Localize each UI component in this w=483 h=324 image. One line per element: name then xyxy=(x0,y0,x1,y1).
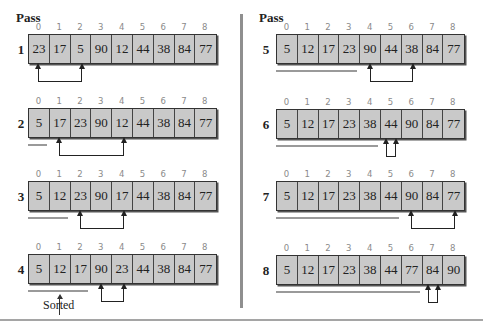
index-label: 5 xyxy=(380,169,401,181)
array-cell: 77 xyxy=(443,35,464,63)
arrow-head-icon xyxy=(408,210,414,216)
index-label: 6 xyxy=(401,97,422,109)
index-label: 4 xyxy=(359,97,380,109)
index-label: 6 xyxy=(401,169,422,181)
arrow-head-icon xyxy=(393,138,399,144)
array-cell: 38 xyxy=(360,256,381,284)
array-cell: 44 xyxy=(381,110,402,138)
index-label: 4 xyxy=(359,243,380,255)
index-label: 4 xyxy=(359,169,380,181)
array-box: 51217233844908477 xyxy=(276,109,465,139)
index-label: 0 xyxy=(276,22,297,34)
swap-arrow xyxy=(411,212,455,229)
pass-number: 8 xyxy=(259,263,273,279)
arrow-head-icon xyxy=(383,138,389,144)
index-label: 1 xyxy=(297,243,318,255)
index-label: 3 xyxy=(338,22,359,34)
array-cell: 90 xyxy=(443,256,464,284)
array-box: 51217239044388477 xyxy=(276,34,465,64)
swap-arrow xyxy=(428,286,438,303)
index-label: 1 xyxy=(297,22,318,34)
sorted-label: Sorted xyxy=(43,298,74,313)
array-cell: 38 xyxy=(402,35,423,63)
array-cell: 84 xyxy=(423,110,444,138)
index-labels: 012345678 xyxy=(276,243,463,255)
array-cell: 77 xyxy=(443,110,464,138)
array-cell: 12 xyxy=(298,182,319,210)
pass-number: 5 xyxy=(259,42,273,58)
index-label: 7 xyxy=(422,169,443,181)
array-box: 51217233844908477 xyxy=(276,181,465,211)
index-label: 0 xyxy=(276,97,297,109)
index-label: 8 xyxy=(442,22,463,34)
array-cell: 17 xyxy=(319,35,340,63)
array-cell: 90 xyxy=(402,182,423,210)
arrow-head-icon xyxy=(425,284,431,290)
arrow-head-icon xyxy=(452,210,458,216)
pass-row: 601234567851217233844908477 xyxy=(0,97,483,167)
index-label: 5 xyxy=(380,243,401,255)
index-label: 2 xyxy=(318,22,339,34)
array-cell: 77 xyxy=(443,182,464,210)
pass-row: 501234567851217239044388477 xyxy=(0,22,483,92)
array-cell: 23 xyxy=(339,182,360,210)
arrow-head-icon xyxy=(367,63,373,69)
array-cell: 5 xyxy=(277,256,298,284)
array-cell: 17 xyxy=(319,110,340,138)
index-label: 6 xyxy=(401,22,422,34)
array-cell: 90 xyxy=(360,35,381,63)
sorted-region-line xyxy=(276,217,399,219)
index-label: 2 xyxy=(318,169,339,181)
index-label: 8 xyxy=(442,169,463,181)
array-cell: 77 xyxy=(402,256,423,284)
sorted-region-line xyxy=(276,145,378,147)
array-cell: 5 xyxy=(277,110,298,138)
swap-arrow xyxy=(386,140,396,157)
array-cell: 84 xyxy=(423,182,444,210)
array-cell: 5 xyxy=(277,35,298,63)
array-cell: 44 xyxy=(381,182,402,210)
arrow-head-icon xyxy=(410,63,416,69)
pass-number: 7 xyxy=(259,189,273,205)
index-labels: 012345678 xyxy=(276,169,463,181)
array-cell: 12 xyxy=(298,110,319,138)
array-cell: 38 xyxy=(360,182,381,210)
array-box: 51217233844778490 xyxy=(276,255,465,285)
index-label: 7 xyxy=(422,243,443,255)
sorted-region-line xyxy=(276,291,420,293)
index-label: 2 xyxy=(318,97,339,109)
pass-number: 6 xyxy=(259,117,273,133)
bottom-rule xyxy=(0,319,483,321)
index-label: 2 xyxy=(318,243,339,255)
array-cell: 12 xyxy=(298,35,319,63)
index-label: 0 xyxy=(276,169,297,181)
array-cell: 84 xyxy=(423,35,444,63)
array-cell: 17 xyxy=(319,256,340,284)
array-cell: 5 xyxy=(277,182,298,210)
index-label: 0 xyxy=(276,243,297,255)
index-label: 3 xyxy=(338,243,359,255)
index-label: 1 xyxy=(297,169,318,181)
array-cell: 90 xyxy=(402,110,423,138)
array-cell: 38 xyxy=(360,110,381,138)
index-label: 7 xyxy=(422,22,443,34)
index-label: 7 xyxy=(422,97,443,109)
index-label: 8 xyxy=(442,243,463,255)
array-cell: 84 xyxy=(423,256,444,284)
array-cell: 17 xyxy=(319,182,340,210)
index-labels: 012345678 xyxy=(276,97,463,109)
index-label: 5 xyxy=(380,22,401,34)
array-cell: 12 xyxy=(298,256,319,284)
index-label: 3 xyxy=(338,97,359,109)
array-cell: 44 xyxy=(381,256,402,284)
array-cell: 44 xyxy=(381,35,402,63)
index-labels: 012345678 xyxy=(276,22,463,34)
array-cell: 23 xyxy=(339,35,360,63)
arrow-head-icon xyxy=(435,284,441,290)
index-label: 3 xyxy=(338,169,359,181)
index-label: 6 xyxy=(401,243,422,255)
array-cell: 23 xyxy=(339,256,360,284)
index-label: 8 xyxy=(442,97,463,109)
swap-arrow xyxy=(370,65,414,82)
sorted-region-line xyxy=(276,70,357,72)
